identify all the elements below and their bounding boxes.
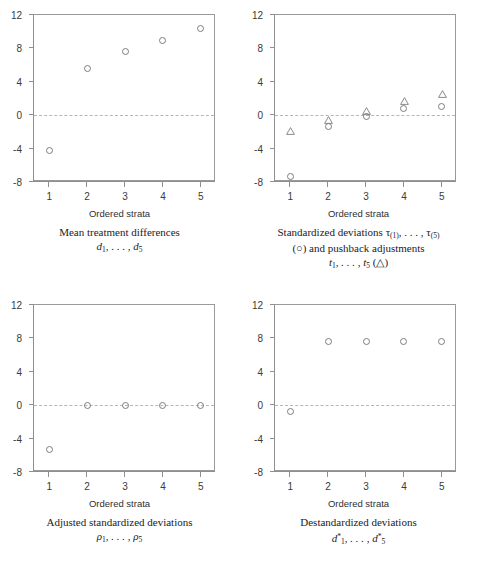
- panel-caption-bottom-left: Adjusted standardized deviations ρ1, . .…: [4, 516, 235, 546]
- y-axis-tick: 8: [270, 337, 275, 338]
- panel-caption-top-right: Standardized deviations τ(1), . . . , τ(…: [243, 226, 474, 272]
- x-axis-tick-label: 3: [122, 191, 128, 202]
- circle-marker: [84, 402, 91, 409]
- x-axis-tick: 2: [327, 182, 328, 187]
- y-axis-tick: 12: [270, 304, 275, 305]
- x-axis-title: Ordered strata: [239, 208, 478, 219]
- x-axis-tick-label: 5: [198, 481, 204, 492]
- caption-sub-last: 5: [139, 534, 143, 543]
- y-axis-bottom-left: -8-404812: [33, 304, 34, 471]
- panel-mean-treatment-differences: -8-404812 12345 Ordered strata Mean trea…: [0, 0, 239, 290]
- caption-mid: , . . . , τ: [399, 226, 431, 238]
- x-axis-tick: 4: [162, 472, 163, 477]
- y-axis-tick-label: 0: [16, 400, 22, 411]
- x-axis-tick-label: 1: [46, 191, 52, 202]
- triangle-marker: [286, 131, 294, 138]
- circle-marker: [197, 402, 204, 409]
- x-axis-tick: 3: [365, 182, 366, 187]
- x-axis-tick-label: 2: [84, 481, 90, 492]
- y-axis-tick-label: -4: [13, 143, 22, 154]
- y-axis-tick-label: 8: [257, 333, 263, 344]
- circle-marker: [400, 338, 407, 345]
- y-axis-tick-label: 4: [16, 366, 22, 377]
- y-axis-tick-label: 8: [257, 43, 263, 54]
- x-axis-tick: 4: [162, 182, 163, 187]
- x-axis-title: Ordered strata: [0, 208, 239, 219]
- y-axis-tick-label: -8: [13, 177, 22, 188]
- y-axis-tick-label: 4: [257, 76, 263, 87]
- y-axis-tick: 4: [270, 81, 275, 82]
- zero-reference-line: [34, 115, 214, 116]
- circle-marker: [438, 338, 445, 345]
- x-axis-tick: 1: [289, 472, 290, 477]
- x-axis-tick-label: 5: [439, 481, 445, 492]
- x-axis-tick-label: 3: [363, 191, 369, 202]
- triangle-marker: [324, 119, 332, 126]
- circle-marker: [363, 338, 370, 345]
- y-axis-tick-label: 8: [16, 43, 22, 54]
- y-axis-tick-label: -4: [13, 433, 22, 444]
- zero-reference-line: [275, 405, 455, 406]
- x-axis-tick: 5: [441, 182, 442, 187]
- y-axis-top-right: -8-404812: [274, 14, 275, 181]
- x-axis-bottom-right: 12345: [274, 471, 456, 472]
- triangle-marker: [438, 93, 446, 100]
- x-axis-title: Ordered strata: [0, 498, 239, 509]
- y-axis-tick-label: 0: [16, 110, 22, 121]
- y-axis-tick: -4: [270, 148, 275, 149]
- x-axis-tick-label: 5: [198, 191, 204, 202]
- x-axis-bottom-left: 12345: [33, 471, 215, 472]
- caption-line-1: Mean treatment differences: [4, 226, 235, 240]
- x-axis-title: Ordered strata: [239, 498, 478, 509]
- y-axis-tick: 0: [270, 404, 275, 405]
- x-axis-tick-label: 4: [160, 481, 166, 492]
- y-axis-tick: 0: [29, 114, 34, 115]
- caption-line-2: d1, . . . , d5: [4, 240, 235, 256]
- circle-marker: [159, 402, 166, 409]
- y-axis-tick-label: -8: [254, 467, 263, 478]
- y-axis-tick: -4: [29, 438, 34, 439]
- caption-line-1: Adjusted standardized deviations: [4, 516, 235, 530]
- circle-marker: [197, 25, 204, 32]
- x-axis-tick: 1: [48, 472, 49, 477]
- caption-sub-2: (5): [431, 231, 440, 240]
- caption-line-3: t1, . . . , t5 (△): [243, 256, 474, 272]
- circle-marker: [438, 103, 445, 110]
- caption-line-2: d*1, . . . , d*5: [243, 530, 474, 549]
- panel-destandardized-deviations: -8-404812 12345 Ordered strata Destandar…: [239, 290, 478, 577]
- x-axis-tick: 1: [289, 182, 290, 187]
- panel-caption-bottom-right: Destandardized deviations d*1, . . . , d…: [243, 516, 474, 548]
- y-axis-tick: 4: [29, 371, 34, 372]
- circle-marker: [122, 48, 129, 55]
- caption-line-2: ρ1, . . . , ρ5: [4, 530, 235, 546]
- x-axis-tick: 2: [327, 472, 328, 477]
- caption-line-1: Standardized deviations τ(1), . . . , τ(…: [243, 226, 474, 242]
- plot-area-bottom-left: [33, 304, 215, 471]
- x-axis-tick-label: 1: [287, 481, 293, 492]
- x-axis-tick-label: 3: [363, 481, 369, 492]
- panel-adjusted-standardized-deviations: -8-404812 12345 Ordered strata Adjusted …: [0, 290, 239, 577]
- caption-ellipsis: , . . . ,: [106, 240, 134, 252]
- caption-sub-last: 5: [382, 537, 386, 546]
- y-axis-tick-label: -8: [13, 467, 22, 478]
- x-axis-tick-label: 2: [325, 481, 331, 492]
- y-axis-tick: 8: [29, 337, 34, 338]
- caption-line-1: Destandardized deviations: [243, 516, 474, 530]
- x-axis-top-right: 12345: [274, 181, 456, 182]
- triangle-marker: [400, 101, 408, 108]
- y-axis-tick-label: 12: [252, 300, 263, 311]
- x-axis-tick-label: 5: [439, 191, 445, 202]
- y-axis-tick: 4: [270, 371, 275, 372]
- x-axis-tick: 5: [441, 472, 442, 477]
- y-axis-tick: 12: [270, 14, 275, 15]
- x-axis-top-left: 12345: [33, 181, 215, 182]
- plot-area-top-right: [274, 14, 456, 181]
- y-axis-tick: 0: [270, 114, 275, 115]
- y-axis-tick-label: -4: [254, 143, 263, 154]
- y-axis-tick-label: 4: [16, 76, 22, 87]
- x-axis-tick: 2: [86, 182, 87, 187]
- y-axis-tick-label: -8: [254, 177, 263, 188]
- y-axis-tick-label: 4: [257, 366, 263, 377]
- y-axis-tick: -4: [270, 438, 275, 439]
- y-axis-tick: 12: [29, 14, 34, 15]
